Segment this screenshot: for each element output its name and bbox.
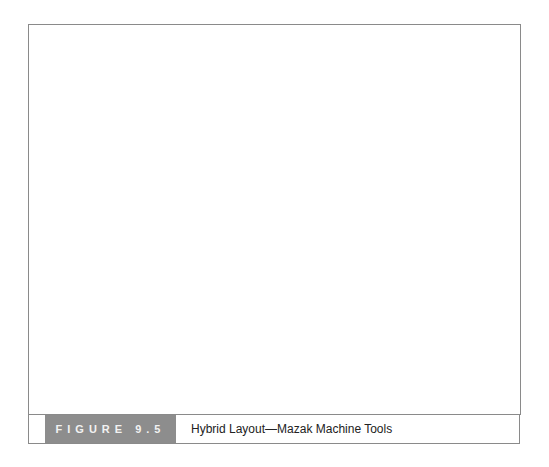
figure-number-label: FIGURE 9.5: [56, 423, 166, 435]
diagram: [0, 0, 549, 467]
figure-title: Hybrid Layout—Mazak Machine Tools: [191, 422, 392, 436]
figure-number-tag: FIGURE 9.5: [45, 415, 176, 443]
caption-bar: FIGURE 9.5 Hybrid Layout—Mazak Machine T…: [28, 414, 520, 444]
